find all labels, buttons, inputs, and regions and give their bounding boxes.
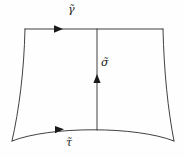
arrow-head-top-right-icon bbox=[54, 25, 63, 33]
arrow-head-bottom-right-icon bbox=[55, 126, 64, 133]
edge-label-sigma: σ̃ bbox=[101, 57, 109, 68]
edge-bottom-tau bbox=[12, 130, 174, 141]
edge-label-tau: τ̃ bbox=[66, 137, 72, 148]
edge-left bbox=[12, 29, 25, 141]
arrow-head-middle-up-icon bbox=[93, 74, 100, 83]
diagram-figure: γ̃ σ̃ τ̃ bbox=[0, 0, 185, 158]
diagram-canvas bbox=[0, 0, 185, 158]
edge-label-gamma: γ̃ bbox=[68, 4, 75, 15]
edge-right bbox=[163, 29, 174, 141]
